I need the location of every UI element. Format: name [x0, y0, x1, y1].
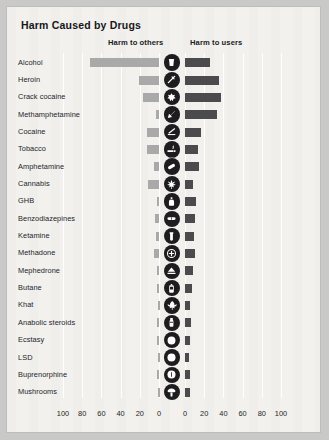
category-label: Ecstasy — [18, 335, 44, 344]
category-label: Butane — [18, 283, 42, 292]
category-label: Tobacco — [18, 144, 46, 153]
x-tick-right: 40 — [219, 409, 227, 418]
buprenorphine-tablet-icon — [164, 367, 180, 383]
chart-row: Mushrooms — [7, 384, 320, 401]
bar-harm-to-users — [185, 197, 196, 206]
category-label: Mushrooms — [18, 387, 57, 396]
bar-harm-to-others — [155, 214, 159, 223]
bar-harm-to-others — [157, 336, 159, 345]
x-tick-right: 100 — [275, 409, 287, 418]
x-tick-left: 100 — [57, 409, 69, 418]
bar-harm-to-others — [156, 232, 159, 241]
chart-row: Amphetamine — [7, 158, 320, 175]
x-tick-left: 0 — [157, 409, 161, 418]
x-tick-right: 0 — [183, 409, 187, 418]
category-label: Crack cocaine — [18, 92, 65, 101]
bar-harm-to-others — [147, 145, 159, 154]
crack-rock-icon — [164, 89, 180, 105]
mephedrone-powder-icon — [164, 263, 180, 279]
bar-harm-to-users — [185, 232, 194, 241]
x-tick-left: 60 — [97, 409, 105, 418]
chart-row: Cannabis — [7, 175, 320, 192]
bar-harm-to-users — [185, 388, 190, 397]
bar-harm-to-others — [139, 76, 159, 85]
chart-row: Ketamine — [7, 228, 320, 245]
chart-row: Methamphetamine — [7, 106, 320, 123]
butane-canister-icon — [164, 280, 180, 296]
bar-harm-to-others — [156, 110, 159, 119]
category-label: Benzodiazepines — [18, 214, 75, 223]
syringe-icon — [164, 72, 180, 88]
bar-harm-to-others — [158, 301, 160, 310]
bar-harm-to-users — [185, 76, 219, 85]
bar-harm-to-others — [158, 388, 160, 397]
crystal-shard-icon — [164, 106, 180, 122]
bar-harm-to-users — [185, 128, 201, 137]
bar-harm-to-users — [185, 162, 199, 171]
steroid-ampoule-icon — [164, 315, 180, 331]
methadone-cross-icon — [164, 245, 180, 261]
bar-harm-to-others — [154, 162, 159, 171]
benzodiazepine-pill-icon — [164, 211, 180, 227]
legend-harm-to-users: Harm to users — [190, 38, 242, 47]
chart-row: Ecstasy — [7, 332, 320, 349]
page-title: Harm Caused by Drugs — [21, 19, 141, 31]
category-label: GHB — [18, 196, 34, 205]
chart-row: Benzodiazepines — [7, 210, 320, 227]
chart-row: Cocaine — [7, 123, 320, 140]
mushroom-icon — [164, 384, 180, 400]
x-tick-right: 20 — [200, 409, 208, 418]
chart-row: Alcohol — [7, 54, 320, 71]
bar-harm-to-users — [185, 58, 210, 67]
bar-harm-to-others — [148, 180, 159, 189]
category-label: Alcohol — [18, 58, 43, 67]
chart-row: Tobacco — [7, 141, 320, 158]
bar-harm-to-users — [185, 110, 217, 119]
category-label: LSD — [18, 353, 33, 362]
khat-leaf-icon — [164, 297, 180, 313]
category-label: Cocaine — [18, 127, 45, 136]
x-axis: 100806040200020406080100 — [7, 409, 320, 423]
bar-harm-to-others — [157, 284, 159, 293]
x-tick-right: 80 — [258, 409, 266, 418]
cocaine-line-icon — [164, 124, 180, 140]
bar-harm-to-others — [147, 128, 159, 137]
bar-harm-to-others — [157, 318, 159, 327]
cannabis-leaf-icon — [164, 176, 180, 192]
bar-harm-to-others — [158, 353, 160, 362]
chart-row: LSD — [7, 349, 320, 366]
ghb-bottle-icon — [164, 193, 180, 209]
bar-harm-to-others — [157, 370, 159, 379]
pill-capsule-icon — [164, 158, 180, 174]
category-label: Anabolic steroids — [18, 318, 75, 327]
category-label: Ketamine — [18, 231, 50, 240]
chart-row: Anabolic steroids — [7, 314, 320, 331]
category-label: Amphetamine — [18, 162, 64, 171]
x-tick-left: 20 — [136, 409, 144, 418]
cigarette-icon — [164, 141, 180, 157]
chart-plot-area: AlcoholHeroinCrack cocaineMethamphetamin… — [7, 53, 320, 403]
bar-harm-to-users — [185, 370, 190, 379]
ketamine-vial-icon — [164, 228, 180, 244]
bar-harm-to-users — [185, 301, 190, 310]
category-label: Methamphetamine — [18, 110, 80, 119]
category-label: Heroin — [18, 75, 40, 84]
bar-harm-to-users — [185, 214, 195, 223]
category-label: Khat — [18, 300, 33, 309]
bar-harm-to-users — [185, 180, 193, 189]
bar-harm-to-users — [185, 336, 190, 345]
category-label: Cannabis — [18, 179, 50, 188]
chart-row: Mephedrone — [7, 262, 320, 279]
lsd-tab-icon — [164, 349, 180, 365]
ecstasy-tablet-icon — [164, 332, 180, 348]
chart-row: Buprenorphine — [7, 366, 320, 383]
x-tick-right: 60 — [238, 409, 246, 418]
x-tick-left: 40 — [116, 409, 124, 418]
bar-harm-to-users — [185, 249, 195, 258]
bar-harm-to-others — [143, 93, 159, 102]
x-tick-left: 80 — [78, 409, 86, 418]
category-label: Methadone — [18, 248, 55, 257]
category-label: Mephedrone — [18, 266, 60, 275]
bar-harm-to-users — [185, 93, 221, 102]
bar-harm-to-others — [157, 266, 159, 275]
